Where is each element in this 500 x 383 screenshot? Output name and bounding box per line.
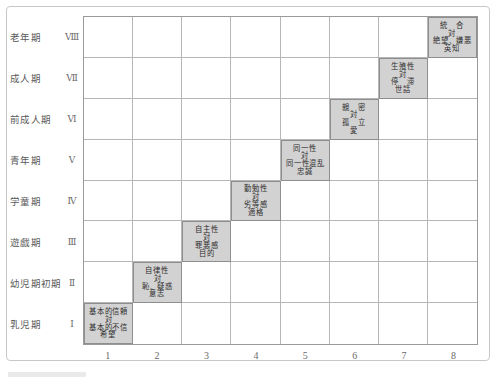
grid-cell-r5c6 (330, 140, 379, 181)
grid-cell-r3c1 (84, 221, 133, 262)
grid-cell-r8c3 (182, 17, 231, 58)
grid-cell-r1c7 (379, 303, 428, 344)
grid-cell-r4c5 (281, 181, 330, 222)
grid-cell-r3c7 (379, 221, 428, 262)
grid-cell-r8c1 (84, 17, 133, 58)
grid-cell-r5c1 (84, 140, 133, 181)
grid-cell-r2c6 (330, 262, 379, 303)
cell-virtue-8: 英知 (445, 45, 461, 53)
column-label-7: 7 (379, 348, 428, 362)
grid-cell-r6c7 (379, 99, 428, 140)
grid-cell-r2c8 (428, 262, 477, 303)
cell-virtue-7: 世話 (395, 86, 411, 94)
grid-cell-r7c2 (133, 58, 182, 99)
erikson-stage-chart: 老年期 Ⅷ 成人期 Ⅶ 前成人期 Ⅵ 青年期 Ⅴ 学童期 Ⅳ 遊戯期 Ⅲ 幼児期… (0, 0, 500, 383)
row-roman-6: Ⅵ (64, 98, 80, 139)
row-stage-name-2: 幼児期初期 (10, 276, 62, 290)
grid-cell-r4c2 (133, 181, 182, 222)
grid-cell-r1c2 (133, 303, 182, 344)
grid-cell-r6c6: 親 密 対 孤 立 愛 (330, 99, 379, 140)
grid-cell-r3c3: 自主性 対 罪悪感 目的 (182, 221, 231, 262)
cell-virtue-4: 適格 (248, 209, 264, 217)
row-roman-5: Ⅴ (64, 139, 80, 180)
grid-cell-r3c4 (231, 221, 280, 262)
grid-cell-r8c2 (133, 17, 182, 58)
grid-cell-r4c3 (182, 181, 231, 222)
cell-virtue-6: 愛 (350, 127, 358, 135)
grid-cell-r5c7 (379, 140, 428, 181)
column-label-2: 2 (132, 348, 181, 362)
grid-cell-r5c8 (428, 140, 477, 181)
grid-cell-r6c5 (281, 99, 330, 140)
grid-cell-r7c3 (182, 58, 231, 99)
column-label-1: 1 (83, 348, 132, 362)
grid-cell-r4c6 (330, 181, 379, 222)
cell-virtue-5: 忠誠 (297, 168, 313, 176)
grid-cell-r2c7 (379, 262, 428, 303)
grid-cell-r2c4 (231, 262, 280, 303)
grid-cell-r7c4 (231, 58, 280, 99)
row-stage-name-4: 学童期 (10, 194, 41, 208)
column-label-8: 8 (429, 348, 478, 362)
row-roman-2: Ⅱ (64, 262, 80, 303)
row-stage-name-7: 成人期 (10, 71, 41, 85)
grid-cell-r7c8 (428, 58, 477, 99)
column-label-5: 5 (281, 348, 330, 362)
grid-cell-r6c2 (133, 99, 182, 140)
grid-cell-r8c8: 統 合 対 絶望、嫌悪 英知 (428, 17, 477, 58)
grid-cell-r6c3 (182, 99, 231, 140)
grid-cell-r2c3 (182, 262, 231, 303)
column-label-6: 6 (330, 348, 379, 362)
grid-cell-r6c1 (84, 99, 133, 140)
grid-cell-r8c4 (231, 17, 280, 58)
column-label-4: 4 (231, 348, 280, 362)
grid-cell-r4c8 (428, 181, 477, 222)
grid-cell-r1c8 (428, 303, 477, 344)
grid-cell-r8c5 (281, 17, 330, 58)
grid-cell-r8c6 (330, 17, 379, 58)
stage-grid: 統 合 対 絶望、嫌悪 英知 生殖性 対 停 滞 世話 親 密 対 孤 立 愛 (83, 16, 478, 345)
row-stage-name-1: 乳児期 (10, 317, 41, 331)
grid-cell-r3c6 (330, 221, 379, 262)
cell-virtue-3: 目的 (199, 250, 215, 258)
grid-cell-r6c4 (231, 99, 280, 140)
grid-cell-r2c5 (281, 262, 330, 303)
grid-cell-r4c4: 勤勉性 対 劣等感 適格 (231, 181, 280, 222)
row-roman-4: Ⅳ (64, 180, 80, 221)
grid-cell-r5c5: 同一性 対 同一性混乱 忠誠 (281, 140, 330, 181)
row-stage-name-6: 前成人期 (10, 112, 51, 126)
row-stage-name-8: 老年期 (10, 30, 41, 44)
grid-cell-r4c7 (379, 181, 428, 222)
grid-cell-r3c2 (133, 221, 182, 262)
grid-cell-r5c2 (133, 140, 182, 181)
row-stage-name-5: 青年期 (10, 153, 41, 167)
grid-cell-r2c2: 自律性 対 恥、疑惑 意志 (133, 262, 182, 303)
grid-cell-r4c1 (84, 181, 133, 222)
row-stage-name-3: 遊戯期 (10, 235, 41, 249)
row-roman-1: Ⅰ (64, 303, 80, 344)
grid-cell-r7c7: 生殖性 対 停 滞 世話 (379, 58, 428, 99)
grid-cell-r1c5 (281, 303, 330, 344)
grid-cell-r2c1 (84, 262, 133, 303)
row-roman-3: Ⅲ (64, 221, 80, 262)
grid-cell-r7c1 (84, 58, 133, 99)
grid-cell-r5c4 (231, 140, 280, 181)
grid-cell-r7c6 (330, 58, 379, 99)
grid-cell-r1c6 (330, 303, 379, 344)
grid-cell-r1c4 (231, 303, 280, 344)
grid-cell-r3c5 (281, 221, 330, 262)
grid-cell-r1c1: 基本的信頼 対 基本的不信 希望 (84, 303, 133, 344)
grid-cell-r6c8 (428, 99, 477, 140)
grid-cell-r7c5 (281, 58, 330, 99)
row-roman-8: Ⅷ (64, 16, 80, 57)
grid-cell-r1c3 (182, 303, 231, 344)
grid-cell-r8c7 (379, 17, 428, 58)
cell-virtue-2: 意志 (150, 290, 166, 298)
grid-cell-r5c3 (182, 140, 231, 181)
cell-virtue-1: 希望 (101, 331, 117, 339)
column-label-3: 3 (182, 348, 231, 362)
row-roman-7: Ⅶ (64, 57, 80, 98)
grid-cell-r3c8 (428, 221, 477, 262)
